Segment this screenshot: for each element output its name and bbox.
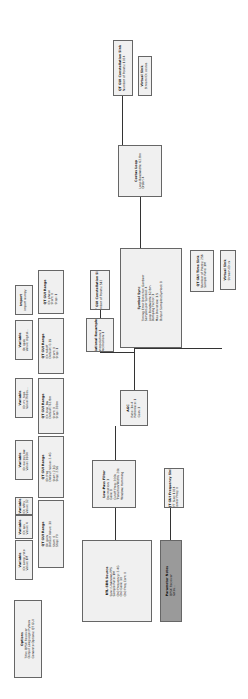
block-range3[interactable]: QT GUI RangeID: loop_bwDefault: 62.8mSta… <box>38 378 64 434</box>
block-param: Value: 4 <box>26 520 30 535</box>
block-text: OptionsTitle: QPSK ReceiverOutput Langua… <box>21 619 35 658</box>
wire <box>122 96 123 145</box>
block-param: Output Samples/Symbol: 1 <box>160 275 164 322</box>
block-options[interactable]: OptionsTitle: QPSK ReceiverOutput Langua… <box>14 600 42 678</box>
block-symsync[interactable]: Symbol SyncTiming Error Detector: Gardne… <box>120 248 182 348</box>
block-var2[interactable]: VariableID: spsValue: 4 <box>15 515 33 539</box>
block-param: Stream ID: costas <box>145 63 149 90</box>
block-text: Rational ResamplerInterpolation: 1Decima… <box>95 318 106 352</box>
wire <box>134 348 135 390</box>
block-param: Value: 350m <box>26 449 30 470</box>
block-var3[interactable]: VariableID: nfiltsValue: 32 <box>15 497 33 515</box>
block-param: Stop: 200m <box>56 394 60 419</box>
block-agc[interactable]: AGCRate: 1e-4Reference: 1Gain: 1 <box>120 390 148 426</box>
block-param: notes... <box>173 566 177 596</box>
block-text: VariableID: spsValue: 4 <box>19 520 30 535</box>
block-text: Virtual SinkStream ID: rx <box>224 260 231 281</box>
wire <box>140 197 141 248</box>
block-text: Parameter NotesQPSK Receivernotes... <box>166 566 177 596</box>
block-param: Value: firdes... <box>26 387 30 408</box>
block-param: Value: 1M <box>26 550 30 571</box>
block-text: Virtual SinkStream ID: costas <box>141 63 148 90</box>
block-import[interactable]: Importimport numpy <box>15 285 33 315</box>
block-text: QT GUI RangeID: freqDefault Value: 2.4GS… <box>42 452 60 481</box>
wire <box>170 508 171 540</box>
wire <box>115 508 116 540</box>
block-text: VariableID: qpskValue: digital... <box>19 329 30 351</box>
block-text: Low-Pass FilterDecimation: 1Gain: 1Cutof… <box>103 468 125 500</box>
block-param: Stop: 2.5G <box>56 452 60 481</box>
block-text: QT GUI Constellation SinkNumber of Point… <box>96 270 103 310</box>
block-text: Costas LoopLoop Bandwidth: 62.8mOrder: 4 <box>135 153 146 189</box>
block-range1[interactable]: QT GUI RangeID: gainDefault Value: 30Sta… <box>38 500 64 568</box>
block-param: Sample Rate: 1M <box>204 254 208 288</box>
block-param: Stream ID: rx <box>228 260 232 281</box>
block-text: RTL-SDR SourceSync: Unknown PPSSample Ra… <box>106 565 128 596</box>
block-costas[interactable]: Costas LoopLoop Bandwidth: 62.8mOrder: 4 <box>118 145 162 197</box>
block-text: VariableID: rrc_tapsValue: firdes... <box>19 387 30 408</box>
block-param: Number of Points: 1024 <box>123 45 127 91</box>
block-range4[interactable]: QT GUI RangeID: rolloffDefault: 0.35Star… <box>38 318 64 374</box>
block-text: VariableID: samp_rateValue: 1M <box>19 550 30 571</box>
block-range2[interactable]: QT GUI RangeID: freqDefault Value: 2.4GS… <box>38 436 64 498</box>
block-const1[interactable]: QT GUI Constellation SinkNumber of Point… <box>90 270 110 310</box>
wire <box>134 348 222 349</box>
block-text: QT GUI Frequency SinkFFT Size: 1024Cente… <box>169 468 180 508</box>
block-param: Gain: 1 <box>138 399 142 418</box>
block-param: Stop: 70 <box>56 521 60 547</box>
block-param: Window: Hamming <box>121 468 125 500</box>
block-freqsink[interactable]: QT GUI Frequency SinkFFT Size: 1024Cente… <box>164 468 184 508</box>
block-range5[interactable]: QT GUI RangeID: phaseStart: 0Stop: 1 <box>38 270 64 314</box>
block-text: QT GUI RangeID: gainDefault Value: 30Sta… <box>42 521 60 547</box>
block-var5[interactable]: VariableID: rrc_tapsValue: firdes... <box>15 378 33 418</box>
block-text: QT GUI RangeID: phaseStart: 0Stop: 1 <box>44 280 58 305</box>
block-param: Generate Options: QT GUI <box>32 619 36 658</box>
wire <box>100 352 134 353</box>
block-param: Value: 32 <box>26 499 30 514</box>
block-var1[interactable]: VariableID: samp_rateValue: 1M <box>15 540 33 580</box>
block-text: QT GUI Time SinkNumber of Points: 256Sam… <box>197 254 208 288</box>
block-text: QT GUI RangeID: rolloffDefault: 0.35Star… <box>42 334 60 359</box>
block-param: Ch0 Freq Corr: 0 <box>124 565 128 596</box>
block-timesink[interactable]: QT GUI Time SinkNumber of Points: 256Sam… <box>190 250 214 292</box>
block-param: Center Freq: 0 <box>176 468 180 508</box>
block-text: Importimport numpy <box>20 289 27 310</box>
block-param: Stop: 1 <box>55 280 59 305</box>
wire <box>100 310 101 318</box>
wire <box>115 426 116 460</box>
block-virtsink2[interactable]: Virtual SinkStream ID: costas <box>138 56 152 96</box>
block-text: AGCRate: 1e-4Reference: 1Gain: 1 <box>127 399 141 418</box>
block-param: Number of Points: 512 <box>100 270 104 310</box>
block-src[interactable]: RTL-SDR SourceSync: Unknown PPSSample Ra… <box>82 540 152 622</box>
block-text: Symbol SyncTiming Error Detector: Gardne… <box>138 275 163 322</box>
block-text: VariableID: excess_bwValue: 350m <box>19 449 30 470</box>
block-text: VariableID: nfiltsValue: 32 <box>19 499 30 514</box>
block-text: QT GUI RangeID: loop_bwDefault: 62.8mSta… <box>42 394 60 419</box>
block-var4[interactable]: VariableID: excess_bwValue: 350m <box>15 440 33 480</box>
block-param: Decimation: 1 <box>102 318 106 352</box>
block-param: import numpy <box>24 289 28 310</box>
block-virtsink[interactable]: Virtual SinkStream ID: rx <box>220 250 236 290</box>
block-var6[interactable]: VariableID: qpskValue: digital... <box>15 320 33 360</box>
block-param: Value: digital... <box>26 329 30 351</box>
block-const2[interactable]: QT GUI Constellation SinkNumber of Point… <box>113 40 133 96</box>
block-param: Stop: 1 <box>56 334 60 359</box>
block-lpf[interactable]: Low-Pass FilterDecimation: 1Gain: 1Cutof… <box>92 460 136 508</box>
block-resamp[interactable]: Rational ResamplerInterpolation: 1Decima… <box>86 318 114 352</box>
block-note[interactable]: Parameter NotesQPSK Receivernotes... <box>160 540 182 622</box>
block-param: Order: 4 <box>142 153 146 189</box>
block-text: QT GUI Constellation SinkNumber of Point… <box>119 45 126 91</box>
